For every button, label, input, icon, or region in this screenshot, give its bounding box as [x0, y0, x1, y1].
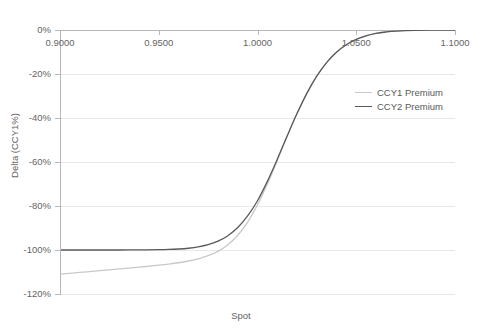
- legend-color-swatch: [355, 106, 372, 107]
- x-tick-mark: [258, 30, 259, 35]
- x-tick-mark: [159, 30, 160, 35]
- x-axis-title: Spot: [0, 310, 482, 321]
- series-line: [60, 30, 455, 250]
- y-axis-line: [60, 30, 61, 295]
- y-tick-mark: [55, 30, 60, 31]
- x-tick-mark: [455, 30, 456, 35]
- x-tick-label: 1.0000: [228, 37, 288, 48]
- x-tick-label: 1.0500: [326, 37, 386, 48]
- legend-item-label: CCY2 Premium: [377, 101, 443, 112]
- y-tick-label: -120%: [0, 288, 51, 299]
- legend-item[interactable]: CCY1 Premium: [355, 85, 443, 99]
- y-tick-label: -20%: [0, 68, 51, 79]
- chart-legend: CCY1 PremiumCCY2 Premium: [355, 85, 443, 113]
- y-tick-mark: [55, 206, 60, 207]
- gridline: [60, 294, 455, 295]
- x-tick-mark: [60, 30, 61, 35]
- chart-container: 0.90000.95001.00001.05001.1000 0%-20%-40…: [0, 0, 482, 334]
- plot-area: [60, 30, 455, 294]
- y-tick-mark: [55, 118, 60, 119]
- series-line: [60, 30, 455, 274]
- y-tick-mark: [55, 294, 60, 295]
- x-tick-mark: [356, 30, 357, 35]
- legend-item-label: CCY1 Premium: [377, 87, 443, 98]
- y-tick-mark: [55, 162, 60, 163]
- y-tick-mark: [55, 74, 60, 75]
- legend-color-swatch: [355, 92, 372, 93]
- y-axis-title: Delta (CCY1%): [9, 86, 20, 206]
- y-tick-mark: [55, 250, 60, 251]
- x-tick-label: 0.9000: [30, 37, 90, 48]
- legend-item[interactable]: CCY2 Premium: [355, 99, 443, 113]
- y-tick-label: 0%: [0, 24, 51, 35]
- x-tick-label: 0.9500: [129, 37, 189, 48]
- series-lines: [60, 30, 455, 294]
- x-tick-label: 1.1000: [425, 37, 482, 48]
- y-tick-label: -100%: [0, 244, 51, 255]
